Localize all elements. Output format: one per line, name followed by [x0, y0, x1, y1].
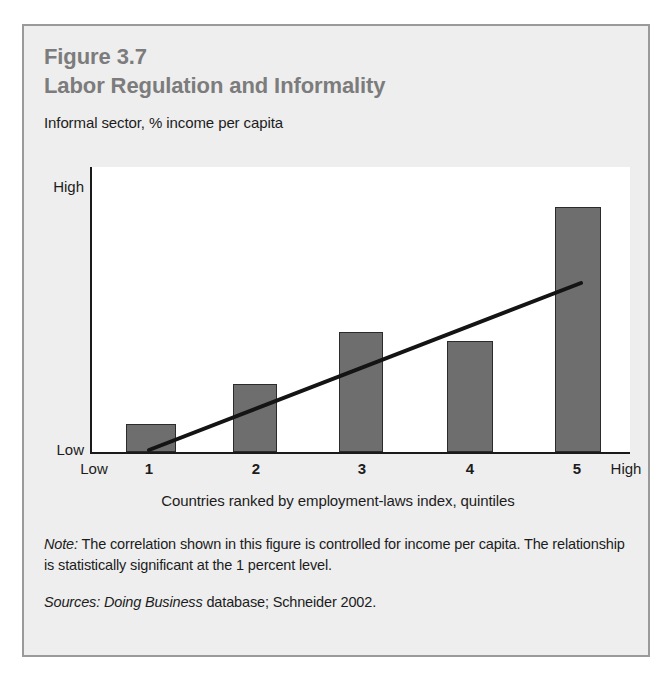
- x-tick-3: 3: [358, 460, 366, 477]
- note-label: Note:: [44, 536, 78, 552]
- figure-panel: Figure 3.7 Labor Regulation and Informal…: [22, 24, 650, 657]
- y-axis-label-high: High: [32, 178, 84, 195]
- figure-title-block: Figure 3.7 Labor Regulation and Informal…: [44, 42, 624, 100]
- x-tick-high: High: [611, 460, 642, 477]
- x-tick-5: 5: [573, 460, 581, 477]
- bar-quintile-2: [233, 384, 277, 452]
- bar-group: [92, 167, 630, 452]
- figure-sources: Sources: Doing Business database; Schnei…: [44, 594, 632, 610]
- x-axis-title: Countries ranked by employment-laws inde…: [24, 492, 652, 509]
- bar-quintile-1: [126, 424, 176, 453]
- note-text: The correlation shown in this figure is …: [44, 536, 625, 573]
- figure-note: Note: The correlation shown in this figu…: [44, 534, 632, 576]
- bar-quintile-3: [339, 332, 383, 452]
- x-tick-low: Low: [80, 460, 108, 477]
- chart-plot-area: [90, 167, 630, 454]
- sources-label: Sources:: [44, 594, 100, 610]
- figure-title: Labor Regulation and Informality: [44, 71, 624, 100]
- sources-emphasis: Doing Business: [100, 594, 203, 610]
- sources-text: database; Schneider 2002.: [203, 594, 376, 610]
- x-tick-1: 1: [145, 460, 153, 477]
- bar-quintile-4: [447, 341, 493, 452]
- y-axis-label-low: Low: [32, 441, 84, 458]
- bar-quintile-5: [555, 207, 602, 452]
- chart-subtitle: Informal sector, % income per capita: [44, 114, 283, 131]
- x-tick-2: 2: [252, 460, 260, 477]
- x-tick-4: 4: [466, 460, 474, 477]
- figure-number: Figure 3.7: [44, 42, 624, 71]
